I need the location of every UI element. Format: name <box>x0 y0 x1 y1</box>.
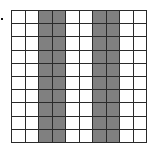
grid-cell-shaded <box>107 64 121 77</box>
grid-cell-shaded <box>107 51 121 64</box>
grid-cell <box>120 130 134 143</box>
grid-cell <box>66 24 80 37</box>
grid-cell <box>134 130 148 143</box>
grid-cell-shaded <box>93 90 107 103</box>
grid-cell-shaded <box>53 51 67 64</box>
grid-cell <box>66 37 80 50</box>
grid-cell <box>26 37 40 50</box>
grid-cell <box>26 103 40 116</box>
grid-cell-shaded <box>93 130 107 143</box>
grid-cell <box>134 11 148 24</box>
grid-cell <box>12 117 26 130</box>
grid-cell <box>66 77 80 90</box>
grid-cell <box>80 11 94 24</box>
grid-cell-shaded <box>93 77 107 90</box>
grid-cell <box>120 24 134 37</box>
grid-cell <box>26 24 40 37</box>
grid-cell <box>134 117 148 130</box>
grid-cell-shaded <box>39 24 53 37</box>
grid-cell-shaded <box>53 64 67 77</box>
grid-cell <box>26 117 40 130</box>
grid-cell-shaded <box>53 77 67 90</box>
grid-cell <box>66 64 80 77</box>
grid-cell <box>134 103 148 116</box>
grid-cell <box>12 130 26 143</box>
grid-cell-shaded <box>53 11 67 24</box>
grid-cell <box>26 77 40 90</box>
grid-cell-shaded <box>107 11 121 24</box>
grid-cell <box>120 103 134 116</box>
grid-cell <box>80 24 94 37</box>
bullet-marker <box>1 18 3 20</box>
grid-cell-shaded <box>53 130 67 143</box>
grid-cell-shaded <box>93 51 107 64</box>
grid-cell <box>80 130 94 143</box>
grid-cell <box>12 103 26 116</box>
grid-cell <box>12 24 26 37</box>
grid-cell <box>12 90 26 103</box>
grid-cell <box>134 77 148 90</box>
grid-cell-shaded <box>93 24 107 37</box>
grid-cell <box>120 117 134 130</box>
grid-cell-shaded <box>107 90 121 103</box>
grid-cell <box>66 130 80 143</box>
grid-cell-shaded <box>107 77 121 90</box>
grid-cell-shaded <box>39 64 53 77</box>
grid-cell <box>26 11 40 24</box>
grid-cell-shaded <box>93 37 107 50</box>
grid-cell-shaded <box>53 90 67 103</box>
grid-cell <box>66 51 80 64</box>
grid-cell-shaded <box>53 24 67 37</box>
grid-cell-shaded <box>53 117 67 130</box>
grid-cell <box>80 117 94 130</box>
grid-cell <box>134 24 148 37</box>
grid-cell-shaded <box>107 103 121 116</box>
grid-cell <box>80 90 94 103</box>
grid-cell <box>80 103 94 116</box>
grid-cell <box>80 37 94 50</box>
grid-cell <box>26 130 40 143</box>
grid-cell <box>12 11 26 24</box>
grid-cell <box>12 64 26 77</box>
grid-cell <box>66 117 80 130</box>
grid-cell-shaded <box>39 11 53 24</box>
grid-cell <box>120 64 134 77</box>
grid-cell <box>26 90 40 103</box>
grid-cell-shaded <box>39 51 53 64</box>
grid-cell-shaded <box>39 103 53 116</box>
grid-cell <box>120 77 134 90</box>
grid-cell-shaded <box>39 37 53 50</box>
grid-cell-shaded <box>39 117 53 130</box>
grid-cell <box>134 51 148 64</box>
grid-cell-shaded <box>93 117 107 130</box>
grid-cell <box>80 64 94 77</box>
grid-cell-shaded <box>39 130 53 143</box>
grid-cell <box>26 64 40 77</box>
grid-cell <box>66 90 80 103</box>
grid-cell-shaded <box>107 37 121 50</box>
grid-cell <box>120 11 134 24</box>
grid-cell <box>80 77 94 90</box>
grid-cell <box>26 51 40 64</box>
grid-cell <box>120 37 134 50</box>
grid-cell-shaded <box>93 11 107 24</box>
grid-cell <box>134 37 148 50</box>
grid-cell-shaded <box>93 64 107 77</box>
grid-cell-shaded <box>93 103 107 116</box>
grid-cell <box>134 90 148 103</box>
grid-cell-shaded <box>53 37 67 50</box>
grid-cell-shaded <box>107 130 121 143</box>
grid-cell <box>66 11 80 24</box>
grid-cell <box>12 37 26 50</box>
grid-cell <box>120 90 134 103</box>
grid-cell <box>12 51 26 64</box>
grid-cell <box>134 64 148 77</box>
grid-cell <box>120 51 134 64</box>
grid-cell-shaded <box>39 77 53 90</box>
grid-cell <box>12 77 26 90</box>
grid-cell-shaded <box>107 24 121 37</box>
grid-cell-shaded <box>107 117 121 130</box>
hundred-grid <box>11 10 147 143</box>
grid-cell <box>80 51 94 64</box>
grid-cell-shaded <box>53 103 67 116</box>
